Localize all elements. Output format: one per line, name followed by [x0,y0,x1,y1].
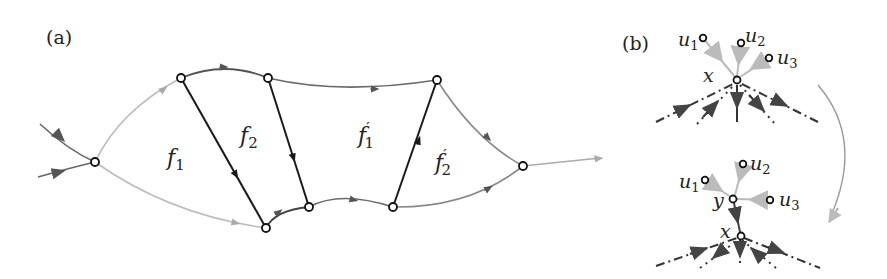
node-u1 [700,35,707,42]
arrow-icon [751,61,764,69]
node-B [177,74,185,82]
node-A [91,158,99,166]
panel-b-top: u1 u2 u3 x [656,24,818,124]
node-y [730,196,737,203]
arrow-icon [712,48,722,61]
diagram-canvas: (a) [0,0,887,279]
edge-G-H [437,80,523,166]
edge-F-G [393,80,437,207]
panel-b-label: (b) [622,32,649,54]
face-label-f1: f1 [165,145,185,174]
transition-arrow [818,85,845,218]
arrow-icon [750,200,765,201]
face-label-f2-prime: f′2 [433,146,451,179]
label-u3: u3 [777,46,798,71]
node-F [389,203,397,211]
incoming-edge-2 [38,162,95,177]
arrow-icon [773,99,787,106]
node-u2 [738,40,745,47]
edge-F-H [393,166,523,207]
arrow-icon [703,101,718,117]
label-u1: u1 [679,170,700,195]
node-D [262,224,270,232]
label-u2: u2 [750,152,771,177]
label-u2: u2 [745,24,766,49]
arrow-icon [690,248,707,254]
dashdot-edge [656,84,733,122]
panel-a-label: (a) [46,26,72,48]
face-label-f2: f2 [238,123,258,152]
panel-b: (b) u1 [622,24,845,268]
arrow-icon [768,247,784,253]
panel-b-bottom: u1 u2 u3 y x [656,152,820,268]
edge-D-E [266,207,309,228]
arrow-icon [55,172,59,173]
label-u1: u1 [678,28,699,53]
label-x: x [720,220,731,242]
label-x: x [703,64,714,86]
arrow-icon [594,159,599,160]
label-y: y [712,189,724,211]
arrow-icon [739,49,741,64]
arrow-icon [751,248,762,258]
node-C [264,74,272,82]
edge-E-F [309,199,393,208]
panel-a: (a) [38,26,600,232]
arrow-icon [57,134,60,137]
label-u3: u3 [779,188,800,213]
node-u2 [740,161,747,168]
incoming-edge-1 [40,124,95,162]
arrow-icon [680,105,690,110]
node-u1 [702,177,709,184]
arrow-icon [417,140,419,145]
arrow-icon [749,95,764,111]
outgoing-edge [523,158,600,166]
edge-B-C [181,69,268,78]
node-H [519,162,527,170]
node-x [734,77,741,84]
node-u3 [767,197,774,204]
node-u3 [766,55,773,62]
edge-C-G [268,78,437,87]
arrow-icon [713,248,725,258]
face-label-f1-prime: f′1 [356,119,374,152]
edge-B-D [181,78,266,228]
node-x [738,233,745,240]
node-G [433,76,441,84]
node-E [305,203,313,211]
edge-C-E [268,78,309,207]
